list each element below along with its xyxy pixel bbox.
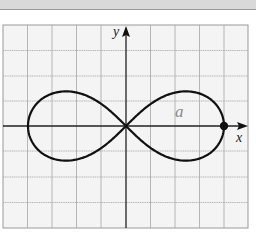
x-axis-label: x [235,130,243,145]
graph-canvas: y x a [0,0,256,234]
curve-label-a: a [175,102,184,121]
y-axis-label: y [111,24,120,39]
marked-point-a [220,122,228,130]
lemniscate-figure: y x a [0,0,256,234]
